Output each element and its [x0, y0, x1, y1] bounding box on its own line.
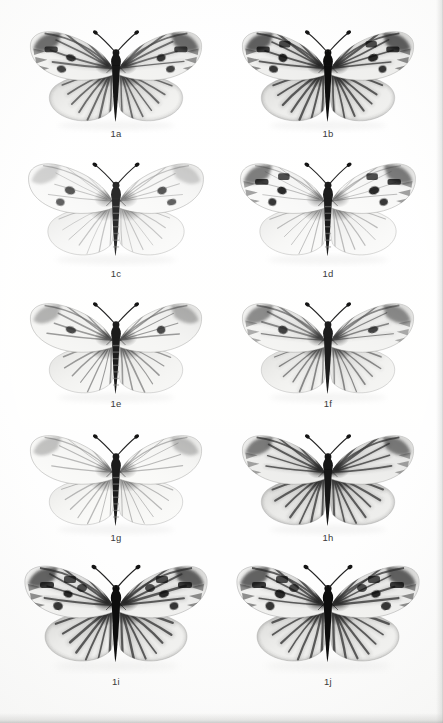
specimen-figure-1a: [22, 24, 210, 133]
specimen-1h: [234, 428, 422, 532]
forewing-right: [325, 156, 415, 214]
forewing-left: [237, 558, 331, 618]
antenna-left: [304, 162, 327, 184]
page-edge-right: [436, 0, 443, 723]
specimen-1c: [20, 156, 212, 266]
butterfly-illustration: [22, 296, 210, 405]
forewing-left: [242, 24, 330, 80]
butterfly-illustration: [20, 156, 212, 267]
forewing-left: [30, 428, 118, 484]
forewing-right: [325, 428, 413, 484]
specimen-1d: [232, 156, 424, 266]
specimen-label-1c: 1c: [20, 268, 212, 279]
forewing-right: [325, 296, 413, 352]
butterfly-illustration: [22, 428, 210, 537]
antenna-left: [304, 434, 326, 456]
specimen-label-1d: 1d: [232, 268, 424, 279]
antenna-right: [330, 30, 352, 52]
forewing-right: [113, 428, 201, 484]
antenna-left: [91, 564, 115, 587]
specimen-figure-1j: [228, 558, 428, 674]
forewing-right: [325, 558, 419, 618]
specimen-label-1b: 1b: [234, 128, 422, 139]
page-edge-bottom: [0, 713, 443, 723]
forewing-right: [325, 24, 413, 80]
specimen-1a: [22, 24, 210, 128]
specimen-label-1e: 1e: [22, 398, 210, 409]
specimen-label-1g: 1g: [22, 532, 210, 543]
antenna-right: [118, 564, 142, 587]
forewing-right: [113, 156, 203, 213]
forewing-left: [30, 296, 118, 352]
forewing-left: [242, 296, 330, 352]
antenna-right: [330, 162, 353, 184]
specimen-1f: [234, 296, 422, 398]
butterfly-illustration: [234, 24, 422, 133]
specimen-figure-1e: [22, 296, 210, 405]
antenna-left: [92, 434, 114, 456]
forewing-left: [25, 558, 119, 618]
forewing-left: [242, 428, 330, 484]
forewing-right: [113, 296, 201, 352]
forewing-left: [30, 24, 118, 80]
antenna-right: [118, 434, 140, 456]
forewing-right: [113, 558, 207, 618]
specimen-label-1f: 1f: [234, 398, 422, 409]
antenna-right: [330, 434, 352, 456]
antenna-right: [330, 564, 354, 587]
specimen-figure-1g: [22, 428, 210, 537]
butterfly-illustration: [234, 296, 422, 405]
antenna-left: [92, 30, 114, 52]
antenna-left: [92, 302, 114, 324]
specimen-1e: [22, 296, 210, 398]
antenna-right: [118, 302, 140, 324]
antenna-right: [118, 30, 140, 52]
specimen-figure-1c: [20, 156, 212, 267]
specimen-figure-1f: [234, 296, 422, 405]
specimen-label-1j: 1j: [228, 676, 428, 687]
specimen-figure-1i: [16, 558, 216, 674]
butterfly-illustration: [16, 558, 216, 674]
forewing-left: [29, 156, 119, 213]
specimen-label-1a: 1a: [22, 128, 210, 139]
butterfly-illustration: [232, 156, 424, 267]
specimen-figure-1b: [234, 24, 422, 133]
specimen-figure-1h: [234, 428, 422, 537]
specimen-label-1i: 1i: [16, 676, 216, 687]
antenna-left: [92, 162, 115, 184]
antenna-left: [303, 564, 327, 587]
specimen-1b: [234, 24, 422, 128]
specimen-1g: [22, 428, 210, 532]
butterfly-illustration: [22, 24, 210, 133]
forewing-right: [113, 24, 201, 80]
specimen-plate: 1a 1b: [0, 0, 443, 723]
antenna-left: [304, 30, 326, 52]
specimen-1j: [228, 558, 428, 674]
specimen-1i: [16, 558, 216, 674]
antenna-right: [118, 162, 141, 184]
antenna-right: [330, 302, 352, 324]
antenna-left: [304, 302, 326, 324]
forewing-left: [241, 156, 331, 214]
butterfly-illustration: [228, 558, 428, 674]
specimen-label-1h: 1h: [234, 532, 422, 543]
specimen-figure-1d: [232, 156, 424, 267]
butterfly-illustration: [234, 428, 422, 537]
